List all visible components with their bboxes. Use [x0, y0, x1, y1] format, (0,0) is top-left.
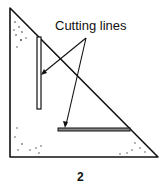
horizontal-cutting-bar [58, 128, 130, 131]
cutting-lines-label: Cutting lines [55, 18, 127, 33]
cutting-diagram: Cutting lines 2 [0, 0, 166, 185]
figure-caption: 2 [77, 170, 84, 184]
arrow-to-horizontal-bar [63, 38, 86, 128]
stipple-texture [13, 21, 145, 155]
vertical-cutting-bar [37, 37, 41, 109]
